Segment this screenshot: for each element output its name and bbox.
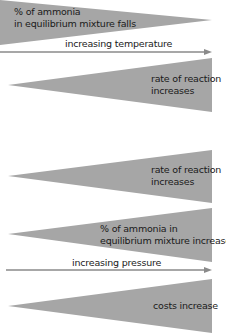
wedge-rate-temp-label: rate of reaction increases [151, 73, 221, 97]
label-line: increases [151, 176, 221, 188]
label-line: in equilibrium mixture falls [14, 18, 136, 30]
label-line: equilibrium mixture increases [100, 235, 226, 247]
temperature-arrow-label: increasing temperature [65, 38, 172, 49]
haber-process-conditions-diagram: % of ammonia in equilibrium mixture fall… [0, 0, 226, 333]
pressure-arrow-label: increasing pressure [72, 257, 161, 268]
label-line: rate of reaction [151, 73, 221, 85]
wedge-rate-pressure-label: rate of reaction increases [151, 164, 221, 188]
wedge-ammonia-increases-label: % of ammonia in equilibrium mixture incr… [100, 223, 226, 247]
label-line: % of ammonia [14, 6, 136, 18]
wedge-costs-label: costs increase [153, 300, 218, 312]
label-line: rate of reaction [151, 164, 221, 176]
temperature-arrow [0, 49, 212, 55]
label-line: % of ammonia in [100, 223, 226, 235]
wedge-ammonia-falls-label: % of ammonia in equilibrium mixture fall… [14, 6, 136, 30]
label-line: increases [151, 85, 221, 97]
